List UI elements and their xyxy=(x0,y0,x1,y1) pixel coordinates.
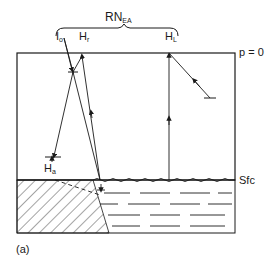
hl-label: HL xyxy=(165,31,177,43)
ha-label: Ha xyxy=(44,163,56,175)
p0-label: p = 0 xyxy=(239,47,264,58)
panel-label: (a) xyxy=(16,244,29,255)
atmosphere-frame xyxy=(17,53,235,180)
hr-label: Hr xyxy=(79,31,89,43)
brace xyxy=(56,24,178,36)
land-region xyxy=(17,180,109,233)
sfc-label: Sfc xyxy=(239,175,255,186)
io-label: Io xyxy=(56,31,63,43)
energy-budget-diagram xyxy=(0,0,276,269)
absorbed-arrow xyxy=(54,72,73,156)
water-dashes xyxy=(100,193,232,226)
longwave-diagonal xyxy=(169,53,210,98)
rn-ea-label: RNEA xyxy=(105,11,132,24)
